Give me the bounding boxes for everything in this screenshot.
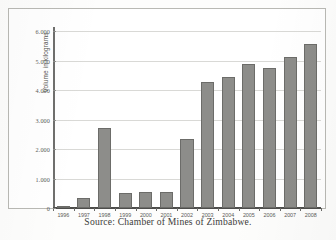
x-axis-tick-mark (74, 208, 75, 211)
y-axis-tick-label: 3.000 (36, 116, 50, 123)
x-axis-tick-mark (136, 208, 137, 211)
bar (263, 68, 276, 208)
y-axis-tick-mark (53, 179, 56, 180)
bar (139, 192, 152, 208)
figure-caption: Source: Chamber of Mines of Zimbabwe. (0, 216, 336, 227)
bar (284, 57, 297, 208)
plot-area (53, 31, 321, 208)
x-axis-tick-mark (115, 208, 116, 211)
y-axis-tick-label: 4.000 (36, 87, 50, 94)
bar (119, 193, 132, 208)
x-axis-tick-mark (177, 208, 178, 211)
x-axis-tick-mark (300, 208, 301, 211)
y-axis-tick-label: 0 (47, 205, 50, 212)
bar (201, 82, 214, 208)
y-axis-tick-mark (53, 31, 56, 32)
y-axis-tick-label: 1.000 (36, 175, 50, 182)
y-axis-tick-mark (53, 208, 56, 209)
y-axis-tick-label: 2.000 (36, 146, 50, 153)
y-axis-tick-mark (53, 149, 56, 150)
bar (242, 64, 255, 208)
x-axis-tick-mark (321, 208, 322, 211)
y-axis-tick-label: 5.000 (36, 57, 50, 64)
x-axis-tick-mark (259, 208, 260, 211)
bar (57, 206, 70, 208)
x-axis-tick-mark (94, 208, 95, 211)
chart-frame: Volume in kilograms 01.0002.0003.0004.00… (8, 8, 326, 209)
bar (304, 44, 317, 208)
bar (160, 192, 173, 208)
x-axis-tick-mark (239, 208, 240, 211)
y-axis-tick-mark (53, 90, 56, 91)
bar-series (53, 31, 321, 208)
bar (222, 77, 235, 208)
bar (180, 139, 193, 208)
bar (98, 128, 111, 209)
y-axis-tick-mark (53, 61, 56, 62)
y-axis-tick-label: 6.000 (36, 28, 50, 35)
y-axis-tick-labels: 01.0002.0003.0004.0005.0006.000 (15, 9, 50, 210)
y-axis-tick-mark (53, 120, 56, 121)
x-axis-tick-mark (156, 208, 157, 211)
x-axis-tick-mark (280, 208, 281, 211)
x-axis-tick-mark (197, 208, 198, 211)
scanned-figure-page: Volume in kilograms 01.0002.0003.0004.00… (0, 0, 336, 240)
x-axis-tick-mark (218, 208, 219, 211)
bar (77, 198, 90, 208)
